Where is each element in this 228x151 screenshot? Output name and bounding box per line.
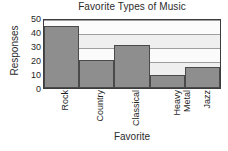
bar-series: [44, 20, 220, 88]
bar-slot: [114, 20, 149, 88]
y-tick-label: 40: [31, 29, 41, 38]
x-tick-label: Jazz: [203, 90, 213, 109]
x-tick-label-line: Heavy: [173, 90, 183, 116]
x-tick-label: Rock: [61, 90, 71, 111]
x-tick-slot: Classical: [114, 90, 150, 130]
bar[interactable]: [150, 75, 185, 88]
y-tick-label: 0: [36, 85, 41, 94]
x-tick-label: Classical: [132, 90, 142, 126]
chart-title: Favorite Types of Music: [40, 1, 224, 12]
x-axis-tick-labels: RockCountryClassicalHeavyMetalJazz: [43, 90, 221, 130]
bar[interactable]: [114, 45, 149, 88]
bar-slot: [79, 20, 114, 88]
y-axis-tick-labels: 01020304050: [24, 19, 41, 89]
x-tick-slot: Country: [79, 90, 115, 130]
y-tick-label: 10: [31, 71, 41, 80]
bar-slot: [44, 20, 79, 88]
x-tick-slot: HeavyMetal: [150, 90, 186, 130]
bar[interactable]: [185, 67, 220, 88]
y-tick-label: 50: [31, 15, 41, 24]
bar-chart-figure: Favorite Types of Music Responses 010203…: [0, 0, 228, 151]
x-tick-slot: Jazz: [185, 90, 221, 130]
y-tick-label: 30: [31, 43, 41, 52]
y-tick-label: 20: [31, 57, 41, 66]
x-tick-label: Country: [96, 90, 106, 122]
plot-area: [43, 19, 221, 89]
bar[interactable]: [79, 60, 114, 88]
y-axis-label: Responses: [9, 11, 20, 91]
x-axis-label: Favorite: [43, 131, 221, 142]
x-tick-slot: Rock: [43, 90, 79, 130]
bar-slot: [150, 20, 185, 88]
bar[interactable]: [44, 26, 79, 88]
bar-slot: [185, 20, 220, 88]
